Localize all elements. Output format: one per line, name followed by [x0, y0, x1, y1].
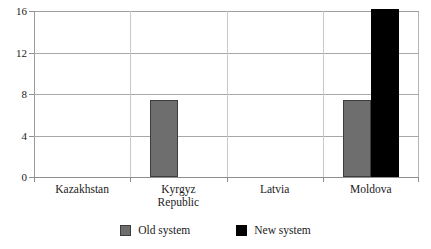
category-label-line: Moldova	[323, 183, 419, 196]
legend-item-old-system[interactable]: Old system	[120, 224, 190, 236]
y-tick-label-0: 0	[22, 172, 28, 183]
category-label-latvia: Latvia	[227, 183, 323, 196]
y-tick-label-4: 4	[22, 130, 28, 141]
legend-swatch-icon-new	[236, 225, 247, 236]
bar-chart: 0481216 KazakhstanKyrgyzRepublicLatviaMo…	[0, 0, 431, 249]
y-tick-mark-16	[29, 11, 34, 12]
y-tick-mark-12	[29, 53, 34, 54]
y-tick-label-16: 16	[16, 6, 27, 17]
category-label-line: Latvia	[227, 183, 323, 196]
bar-moldova-old-system	[343, 100, 371, 177]
category-label-kazakhstan: Kazakhstan	[34, 183, 130, 196]
bar-kyrgyz-republic-old-system	[150, 100, 178, 177]
category-separator-1	[130, 11, 131, 177]
category-label-kyrgyz-republic: KyrgyzRepublic	[130, 183, 226, 208]
plot-area: 0481216	[34, 11, 419, 177]
category-label-line: Republic	[130, 196, 226, 209]
legend-swatch-icon-old	[120, 225, 131, 236]
legend-label: New system	[254, 224, 311, 236]
y-tick-label-12: 12	[16, 47, 27, 58]
category-label-line: Kazakhstan	[34, 183, 130, 196]
x-axis-baseline	[34, 177, 419, 178]
category-label-line: Kyrgyz	[130, 183, 226, 196]
legend-label: Old system	[138, 224, 190, 236]
category-label-moldova: Moldova	[323, 183, 419, 196]
y-tick-mark-4	[29, 136, 34, 137]
category-separator-2	[227, 11, 228, 177]
bar-moldova-new-system	[371, 9, 399, 177]
chart-legend: Old systemNew system	[0, 224, 431, 236]
legend-item-new-system[interactable]: New system	[236, 224, 311, 236]
y-tick-label-8: 8	[22, 89, 28, 100]
y-tick-mark-8	[29, 94, 34, 95]
category-separator-3	[323, 11, 324, 177]
